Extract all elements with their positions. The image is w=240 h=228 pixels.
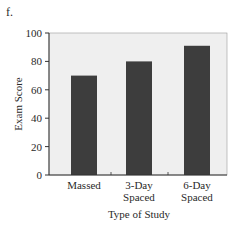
x-category-label: Spaced xyxy=(123,191,155,203)
x-category-label: Spaced xyxy=(181,191,213,203)
x-category-label: Massed xyxy=(67,179,101,191)
y-tick-label: 0 xyxy=(37,169,43,181)
bar-1 xyxy=(71,76,97,175)
x-axis-title: Type of Study xyxy=(108,208,171,220)
y-tick-label: 100 xyxy=(26,27,43,39)
y-tick-label: 40 xyxy=(31,112,43,124)
y-tick-label: 60 xyxy=(31,84,43,96)
bar-3 xyxy=(184,46,210,175)
y-tick-label: 80 xyxy=(31,55,43,67)
x-category-label: 3-Day xyxy=(125,179,153,191)
bar-2 xyxy=(126,61,152,175)
y-axis-title: Exam Score xyxy=(12,77,24,131)
x-category-label: 6-Day xyxy=(183,179,211,191)
bar-chart: 020406080100Massed3-DaySpaced6-DaySpaced… xyxy=(0,0,240,228)
y-tick-label: 20 xyxy=(31,141,43,153)
